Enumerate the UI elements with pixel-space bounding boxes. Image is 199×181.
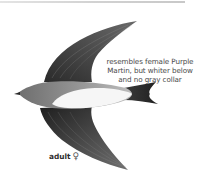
caption-line-3: and no gray collar — [104, 75, 196, 84]
identification-note: resembles female Purple Martin, but whit… — [104, 57, 196, 84]
female-symbol-icon: ♀ — [73, 151, 80, 161]
caption-line-2: Martin, but whiter below — [104, 66, 196, 75]
age-sex-label: adult♀ — [49, 151, 79, 161]
bill — [14, 92, 20, 95]
bird-illustration — [0, 0, 199, 181]
caption-line-1: resembles female Purple — [104, 57, 196, 66]
age-text: adult — [49, 152, 71, 161]
